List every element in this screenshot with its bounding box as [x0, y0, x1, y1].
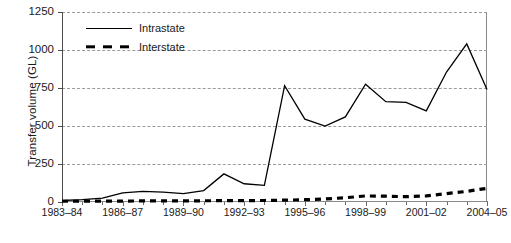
- intrastate-legend-key: [86, 23, 132, 33]
- x-tick-label: 1983–84: [42, 206, 83, 218]
- chart-legend: Intrastate Interstate: [86, 20, 185, 58]
- x-tick-mark-minor: [467, 202, 468, 205]
- y-tick-label: 1250: [28, 6, 54, 18]
- chart-container: Transfer volume (GL) 025050075010001250 …: [0, 0, 511, 243]
- x-tick-mark-minor: [447, 202, 448, 205]
- x-tick-mark-minor: [82, 202, 83, 205]
- x-tick-mark-minor: [406, 202, 407, 205]
- y-tick-label: 750: [35, 82, 54, 94]
- series-line-interstate: [62, 188, 487, 201]
- x-tick-label: 2004–05: [467, 206, 508, 218]
- x-tick-mark-minor: [102, 202, 103, 205]
- x-tick-mark-minor: [204, 202, 205, 205]
- x-tick-mark-minor: [285, 202, 286, 205]
- legend-item-intrastate: Intrastate: [86, 20, 185, 36]
- legend-item-interstate: Interstate: [86, 39, 185, 55]
- x-tick-mark-minor: [325, 202, 326, 205]
- series-line-intrastate: [62, 44, 487, 201]
- legend-label-intrastate: Intrastate: [139, 22, 185, 34]
- interstate-legend-key: [86, 42, 132, 52]
- x-tick-label: 2001–02: [406, 206, 447, 218]
- x-tick-label: 1998–99: [345, 206, 386, 218]
- y-tick-label: 250: [35, 158, 54, 170]
- x-tick-label: 1986–87: [102, 206, 143, 218]
- x-tick-mark-minor: [224, 202, 225, 205]
- x-tick-label: 1992–93: [224, 206, 265, 218]
- x-tick-label: 1995–96: [284, 206, 325, 218]
- x-tick-label: 1989–90: [163, 206, 204, 218]
- x-tick-mark-minor: [386, 202, 387, 205]
- y-tick-label: 1000: [28, 44, 54, 56]
- y-tick-label: 500: [35, 120, 54, 132]
- legend-label-interstate: Interstate: [139, 41, 185, 53]
- x-tick-mark-minor: [264, 202, 265, 205]
- x-tick-mark-minor: [345, 202, 346, 205]
